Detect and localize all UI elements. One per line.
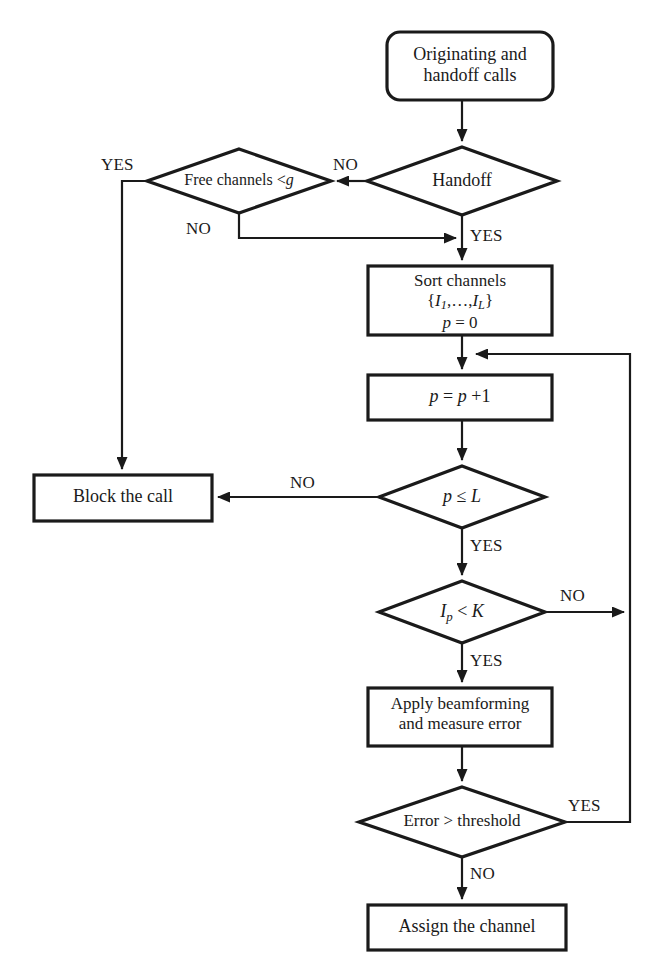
- edge-label-no-ipk: NO: [560, 586, 585, 606]
- flowchart-shapes-and-connectors: [0, 0, 664, 976]
- edge-label-yes-ple: YES: [470, 536, 503, 556]
- node-handoff-shape: [367, 147, 557, 215]
- node-block-shape: [34, 475, 212, 521]
- edge-label-yes-errthresh: YES: [568, 796, 601, 816]
- node-start-shape: [387, 32, 553, 100]
- node-ipk-shape: [379, 581, 545, 643]
- node-increment-shape: [368, 375, 552, 420]
- node-assign-shape: [368, 905, 566, 950]
- node-ple-shape: [379, 466, 545, 528]
- connector-freechan-no-to-sort: [239, 213, 456, 238]
- edge-label-no-freechan: NO: [186, 219, 211, 239]
- flowchart-canvas: Originating and handoff calls Handoff Fr…: [0, 0, 664, 976]
- connector-errthresh-yes-loopback: [476, 354, 630, 822]
- edge-label-yes-ipk: YES: [470, 651, 503, 671]
- edge-label-no-handoff: NO: [333, 155, 358, 175]
- node-beamform-shape: [368, 688, 552, 746]
- node-freechan-shape: [147, 149, 331, 213]
- edge-label-no-errthresh: NO: [470, 864, 495, 884]
- edge-label-no-ple: NO: [290, 473, 315, 493]
- edge-label-yes-handoff: YES: [470, 226, 503, 246]
- edge-label-yes-freechan: YES: [101, 155, 134, 175]
- node-sort-shape: [368, 266, 552, 335]
- connector-freechan-yes-to-block: [122, 181, 147, 469]
- node-errthresh-shape: [359, 787, 565, 857]
